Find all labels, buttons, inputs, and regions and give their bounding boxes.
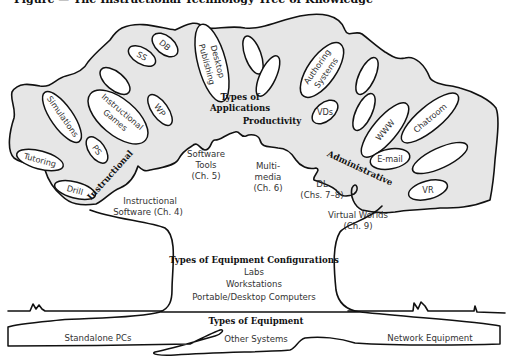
dl-line1: DL [316, 179, 328, 189]
root-standalone-pcs: Standalone PCs [64, 333, 132, 343]
config-workstations: Workstations [226, 279, 282, 289]
figure-title: Figure — The Instructional Technology Tr… [14, 0, 373, 6]
multimedia-line3: (Ch. 6) [253, 183, 282, 193]
dl-line2: (Chs. 7–8) [300, 190, 343, 200]
instructional-software-line2: Software (Ch. 4) [113, 207, 183, 217]
trunk-left-edge [90, 210, 173, 312]
root-network-equipment: Network Equipment [387, 333, 473, 343]
config-labs: Labs [244, 267, 265, 277]
config-portable-desktop: Portable/Desktop Computers [192, 292, 316, 302]
root-other-systems: Other Systems [224, 334, 288, 344]
software-tools-line2: Tools [194, 160, 217, 170]
tree-of-knowledge-diagram: Figure — The Instructional Technology Tr… [0, 0, 512, 363]
virtual-worlds-line1: Virtual Worlds [328, 210, 388, 220]
branch-label-productivity: Productivity [243, 116, 303, 126]
multimedia-line2: media [255, 172, 282, 182]
equipment-configurations-heading: Types of Equipment Configurations [169, 255, 339, 265]
software-tools-line3: (Ch. 5) [191, 171, 220, 181]
trunk-right-edge [334, 206, 382, 312]
leaf-label-vds: VDs [317, 107, 333, 117]
types-of-applications-line1: Types of [220, 92, 260, 102]
software-tools-line1: Software [187, 149, 225, 159]
types-of-applications-line2: Applications [209, 103, 270, 113]
types-of-equipment-heading: Types of Equipment [208, 316, 303, 326]
multimedia-line1: Multi- [256, 161, 280, 171]
instructional-software-line1: Instructional [123, 196, 177, 206]
leaf-label-vr: VR [422, 185, 434, 195]
leaf-label-email: E-mail [377, 154, 403, 164]
